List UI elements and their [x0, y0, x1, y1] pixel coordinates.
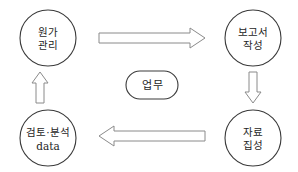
block-arrow-up-icon — [32, 72, 48, 103]
process-cycle-diagram: 원가 관리 보고서 작성 자료 집성 검토·분석 data 업무 — [0, 0, 298, 172]
node-circle-shape — [225, 110, 281, 166]
node-label-line1: 검토·분석 — [26, 126, 69, 138]
block-arrow-left-icon — [99, 126, 205, 146]
node-label-line2: 집성 — [243, 139, 263, 151]
arrow-top-right-direction — [99, 28, 205, 48]
center-node-business[interactable]: 업무 — [126, 71, 178, 99]
node-report-writing[interactable]: 보고서 작성 — [225, 10, 281, 66]
node-label-line2: 관리 — [38, 39, 58, 51]
node-review-analysis-data[interactable]: 검토·분석 data — [20, 110, 76, 166]
node-label-line1: 원가 — [38, 26, 58, 38]
node-circle-shape — [20, 10, 76, 66]
arrow-right-down-direction — [245, 72, 261, 103]
node-data-compilation[interactable]: 자료 집성 — [225, 110, 281, 166]
node-circle-shape — [20, 110, 76, 166]
arrow-bottom-left-direction — [99, 126, 205, 146]
arrow-left-up-direction — [32, 72, 48, 103]
block-arrow-down-icon — [245, 72, 261, 103]
node-label-line1: 자료 — [243, 126, 263, 138]
node-label-line2: data — [36, 140, 59, 152]
node-circle-shape — [225, 10, 281, 66]
diagram-canvas: 원가 관리 보고서 작성 자료 집성 검토·분석 data 업무 — [0, 0, 298, 172]
node-label-line1: 보고서 — [238, 26, 268, 38]
node-cost-management[interactable]: 원가 관리 — [20, 10, 76, 66]
block-arrow-right-icon — [99, 28, 205, 48]
node-label-line2: 작성 — [243, 39, 263, 51]
center-node-label: 업무 — [142, 79, 164, 92]
